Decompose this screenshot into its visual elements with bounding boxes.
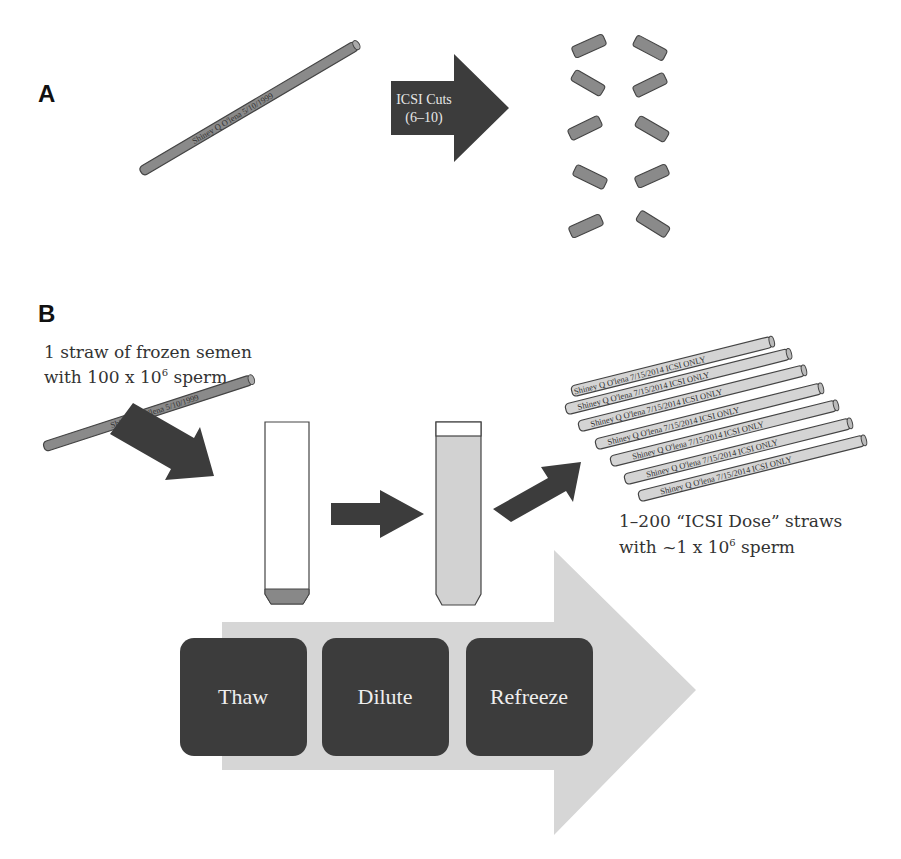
step-thaw: Thaw <box>180 638 307 756</box>
step-refreeze: Refreeze <box>466 638 593 756</box>
caption-right-line2: with ~1 x 106 sperm <box>619 537 795 557</box>
tube-diluted <box>436 422 481 605</box>
caption-right-line1: 1–200 “ICSI Dose” straws <box>619 511 842 531</box>
svg-text:Thaw: Thaw <box>218 684 268 709</box>
straw-label: Shiney Q O'lena 5/10/1999 <box>190 90 275 146</box>
panel-a-letter: A <box>38 80 55 107</box>
cut-pieces <box>567 34 671 239</box>
frozen-straw-a: Shiney Q O'lena 5/10/1999 <box>138 39 361 176</box>
icsi-cuts-label: ICSI Cuts <box>396 92 452 107</box>
arrow-to-straws <box>493 462 581 522</box>
arrow-to-thaw <box>110 403 214 480</box>
caption-left-line1: 1 straw of frozen semen <box>44 342 252 362</box>
panel-b-letter: B <box>38 300 55 327</box>
step-dilute: Dilute <box>322 638 449 756</box>
svg-text:Dilute: Dilute <box>358 684 413 709</box>
icsi-dose-straws: Shiney Q O'lena 7/15/2014 ICSI ONLY Shin… <box>565 336 868 502</box>
icsi-cuts-range: (6–10) <box>405 110 443 126</box>
arrow-to-dilute <box>331 490 424 538</box>
tube-thawed <box>265 422 309 604</box>
svg-text:Refreeze: Refreeze <box>490 684 568 709</box>
caption-left-line2: with 100 x 106 sperm <box>44 367 227 387</box>
icsi-cuts-arrow: ICSI Cuts (6–10) <box>391 54 509 162</box>
diagram-canvas: A Shiney Q O'lena 5/10/1999 ICSI Cuts (6… <box>0 0 901 859</box>
